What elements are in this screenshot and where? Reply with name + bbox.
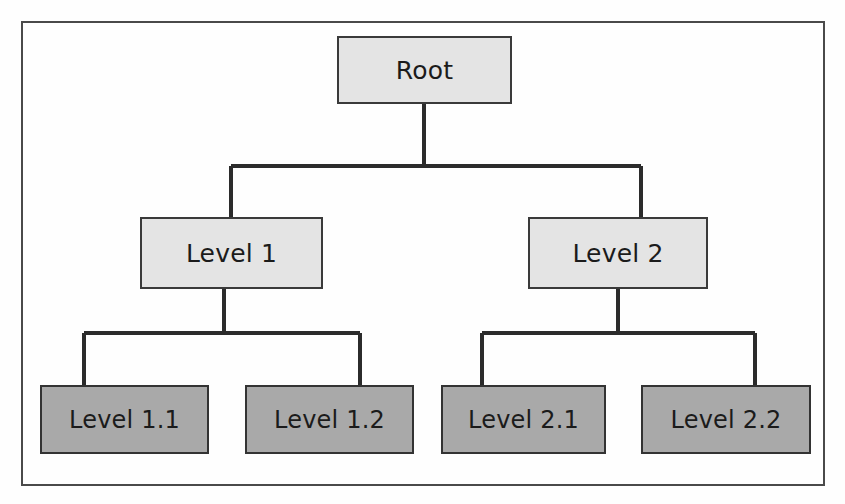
tree-node-level-2-1[interactable]: Level 2.1: [441, 385, 606, 454]
tree-node-level-1-1-label: Level 1.1: [69, 408, 180, 432]
tree-node-root[interactable]: Root: [337, 36, 512, 104]
tree-node-level-1[interactable]: Level 1: [140, 217, 323, 289]
tree-node-level-1-label: Level 1: [186, 241, 277, 266]
tree-node-root-label: Root: [396, 58, 453, 83]
tree-node-level-1-2-label: Level 1.2: [274, 408, 385, 432]
tree-node-level-1-2[interactable]: Level 1.2: [245, 385, 414, 454]
diagram-canvas: Root Level 1 Level 2 Level 1.1 Level 1.2…: [0, 0, 845, 504]
tree-node-level-1-1[interactable]: Level 1.1: [40, 385, 209, 454]
tree-node-level-2[interactable]: Level 2: [528, 217, 708, 289]
tree-node-level-2-1-label: Level 2.1: [468, 408, 579, 432]
tree-node-level-2-label: Level 2: [572, 241, 663, 266]
tree-node-level-2-2[interactable]: Level 2.2: [641, 385, 811, 454]
tree-node-level-2-2-label: Level 2.2: [671, 408, 782, 432]
